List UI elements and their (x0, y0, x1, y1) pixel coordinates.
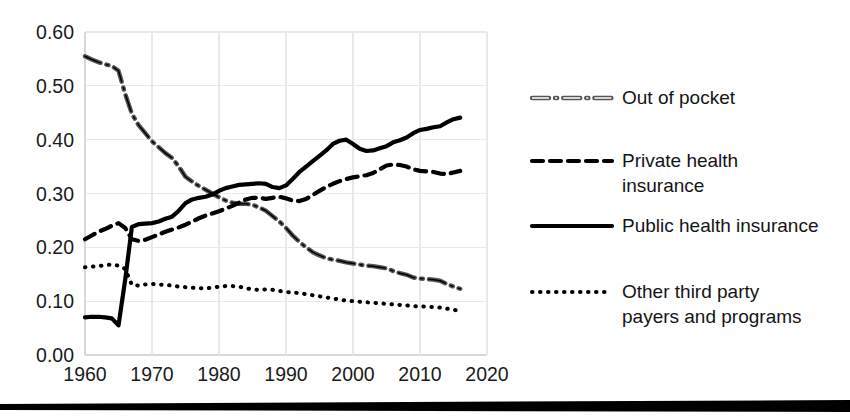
x-tick-label: 1970 (130, 363, 174, 385)
legend-label: Out of pocket (622, 87, 736, 108)
legend-label-continuation: payers and programs (622, 306, 802, 327)
y-tick-label: 0.30 (36, 183, 74, 205)
y-tick-label: 0.60 (36, 21, 74, 43)
x-tick-label: 2000 (331, 363, 375, 385)
x-tick-label: 1960 (63, 363, 107, 385)
chart-background (0, 0, 850, 420)
y-tick-label: 0.20 (36, 236, 74, 258)
legend-label: Public health insurance (622, 215, 818, 236)
legend-label: Other third party (622, 281, 760, 302)
x-tick-label: 1990 (264, 363, 308, 385)
y-tick-label: 0.10 (36, 290, 74, 312)
legend-label-continuation: insurance (622, 175, 704, 196)
health-spending-share-chart: 0.000.100.200.300.400.500.60 19601970198… (0, 0, 850, 420)
y-tick-label: 0.50 (36, 75, 74, 97)
x-tick-label: 1980 (197, 363, 241, 385)
x-tick-label: 2010 (398, 363, 442, 385)
legend-label: Private health (622, 150, 738, 171)
y-tick-label: 0.40 (36, 129, 74, 151)
x-tick-label: 2020 (465, 363, 509, 385)
